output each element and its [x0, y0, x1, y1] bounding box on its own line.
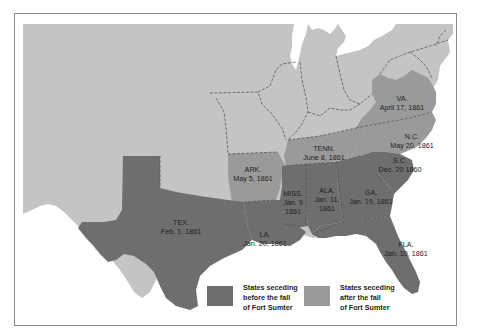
- secession-date: Jan. 20, 1861: [243, 239, 287, 248]
- secession-date: Jan. 10, 1861: [384, 249, 428, 258]
- state-abbr: TEX.: [161, 218, 201, 227]
- state-abbr: VA.: [380, 94, 424, 103]
- secession-year: 1861: [314, 204, 339, 213]
- secession-date: Feb. 1, 1861: [161, 227, 201, 236]
- legend-label-before: States seceding before the fall of Fort …: [243, 283, 298, 313]
- state-abbr: ARK.: [233, 165, 273, 174]
- label-georgia: GA. Jan. 19, 1861: [349, 188, 393, 206]
- label-tennessee: TENN. June 8, 1861: [303, 144, 345, 162]
- state-abbr: LA.: [243, 230, 287, 239]
- label-north-carolina: N.C. May 20, 1861: [390, 132, 434, 150]
- secession-date: May 5, 1861: [233, 174, 273, 183]
- label-louisiana: LA. Jan. 20, 1861: [243, 230, 287, 248]
- legend-swatch-before: [207, 286, 233, 306]
- legend-label-after: States seceding after the fall of Fort S…: [340, 283, 395, 313]
- map-legend: States seceding before the fall of Fort …: [207, 283, 437, 323]
- secession-date: Jan. 19, 1861: [349, 197, 393, 206]
- secession-date: June 8, 1861: [303, 153, 345, 162]
- state-abbr: FLA.: [384, 240, 428, 249]
- state-abbr: TENN.: [303, 144, 345, 153]
- secession-year: 1861: [283, 207, 303, 216]
- label-alabama: ALA. Jan. 11, 1861: [314, 186, 339, 213]
- label-texas: TEX. Feb. 1, 1861: [161, 218, 201, 236]
- label-virginia: VA. April 17, 1861: [380, 94, 424, 112]
- legend-swatch-after: [304, 286, 330, 306]
- state-abbr: ALA.: [314, 186, 339, 195]
- state-abbr: MISS.: [283, 189, 303, 198]
- state-abbr: S.C.: [379, 156, 422, 165]
- label-mississippi: MISS. Jan. 9 1861: [283, 189, 303, 216]
- secession-date: Dec. 20 1860: [379, 165, 422, 174]
- state-abbr: N.C.: [390, 132, 434, 141]
- secession-date: April 17, 1861: [380, 103, 424, 112]
- label-south-carolina: S.C. Dec. 20 1860: [379, 156, 422, 174]
- secession-date: Jan. 11,: [314, 195, 339, 204]
- label-arkansas: ARK. May 5, 1861: [233, 165, 273, 183]
- secession-date: Jan. 9: [283, 198, 303, 207]
- secession-date: May 20, 1861: [390, 141, 434, 150]
- label-florida: FLA. Jan. 10, 1861: [384, 240, 428, 258]
- state-abbr: GA.: [349, 188, 393, 197]
